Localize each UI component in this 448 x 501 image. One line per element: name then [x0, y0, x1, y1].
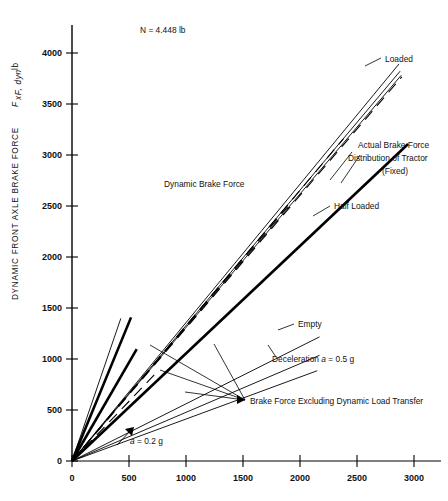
- annotation-loaded: Loaded: [385, 54, 413, 64]
- annotation-actual-line2: Distribution of Tractor: [348, 153, 428, 163]
- svg-text:Deceleration a = 0.5 g: Deceleration a = 0.5 g: [272, 354, 355, 364]
- x-tick-label: 0: [69, 473, 74, 483]
- y-tick-label: 4000: [42, 48, 62, 58]
- annotation-empty: Empty: [298, 319, 323, 329]
- x-tick-label: 2500: [347, 473, 367, 483]
- y-axis-tick-labels: 0 500 1000 1500 2000 2500 3000 3500 4000: [42, 48, 62, 466]
- y-tick-label: 0: [57, 456, 62, 466]
- annotation-half-loaded: Half Loaded: [334, 201, 380, 211]
- annotation-unit-note: N = 4.448 lb: [140, 25, 186, 35]
- x-tick-label: 1500: [233, 473, 253, 483]
- brake-force-chart: DYNAMIC FRONT AXLE BRAKE FORCE F xF, dyn…: [0, 0, 448, 501]
- annotation-deceleration: Deceleration a = 0.5 g: [272, 354, 355, 364]
- leader-loaded: [365, 58, 381, 66]
- x-axis-tick-labels: 0 500 1000 1500 2000 2500 3000: [69, 473, 424, 483]
- x-tick-label: 2000: [290, 473, 310, 483]
- annotation-deceleration-post: = 0.5 g: [326, 354, 355, 364]
- annotation-a02g-post: = 0.2 g: [135, 436, 164, 446]
- y-tick-label: 500: [47, 405, 62, 415]
- y-axis-title-main: DYNAMIC FRONT AXLE BRAKE FORCE: [11, 127, 20, 300]
- x-tick-label: 1000: [176, 473, 196, 483]
- data-series-line: [72, 144, 408, 461]
- x-tick-label: 3000: [404, 473, 424, 483]
- y-tick-label: 2500: [42, 201, 62, 211]
- x-tick-label: 500: [121, 473, 136, 483]
- y-tick-label: 3500: [42, 99, 62, 109]
- leader-excluding-3: [185, 392, 245, 400]
- leader-excluding-4: [214, 344, 245, 400]
- annotation-actual-line3: (Fixed): [382, 166, 408, 176]
- y-axis-title-unit: , lb: [11, 62, 20, 76]
- annotation-dynamic-brake-force: Dynamic Brake Force: [164, 179, 245, 189]
- y-tick-label: 3000: [42, 150, 62, 160]
- leader-empty: [278, 324, 294, 330]
- y-tick-label: 2000: [42, 252, 62, 262]
- y-axis-title: DYNAMIC FRONT AXLE BRAKE FORCE F xF, dyn…: [11, 62, 23, 300]
- annotation-a02g: a = 0.2 g: [130, 436, 163, 446]
- annotation-actual-line1: Actual Brake Force: [358, 140, 430, 150]
- svg-text:a = 0.2 g: a = 0.2 g: [130, 436, 163, 446]
- y-tick-label: 1500: [42, 303, 62, 313]
- leader-excluding-arrowhead: [237, 395, 245, 404]
- annotation-excluding: Brake Force Excluding Dynamic Load Trans…: [250, 396, 423, 406]
- annotation-deceleration-pre: Deceleration: [272, 354, 321, 364]
- y-tick-label: 1000: [42, 354, 62, 364]
- y-axis-title-symbol: F: [11, 101, 20, 107]
- chart-root: DYNAMIC FRONT AXLE BRAKE FORCE F xF, dyn…: [0, 0, 448, 501]
- leader-half-loaded: [313, 206, 330, 216]
